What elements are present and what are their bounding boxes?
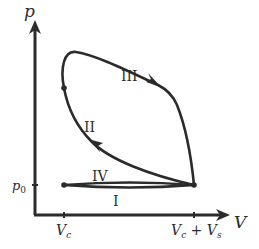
region-label-III: III	[121, 68, 138, 84]
axes	[29, 20, 230, 221]
process-IV-curve	[64, 183, 194, 186]
region-label-I: I	[113, 193, 119, 209]
region-label-IV: IV	[92, 168, 109, 184]
p-axis-label: p	[24, 1, 35, 21]
state-point-left-p0	[61, 182, 67, 188]
p0-label: p0	[12, 178, 26, 195]
state-point-left-upper	[61, 85, 67, 91]
pv-diagram: p V p0 Vc Vc + Vs III II IV I	[0, 0, 259, 249]
vc-plus-vs-label: Vc + Vs	[171, 222, 222, 240]
vc-label: Vc	[56, 222, 71, 240]
region-label-II: II	[84, 119, 95, 135]
state-point-right-p0	[191, 182, 197, 188]
v-axis-label: V	[234, 212, 248, 232]
process-I-curve	[64, 185, 194, 188]
